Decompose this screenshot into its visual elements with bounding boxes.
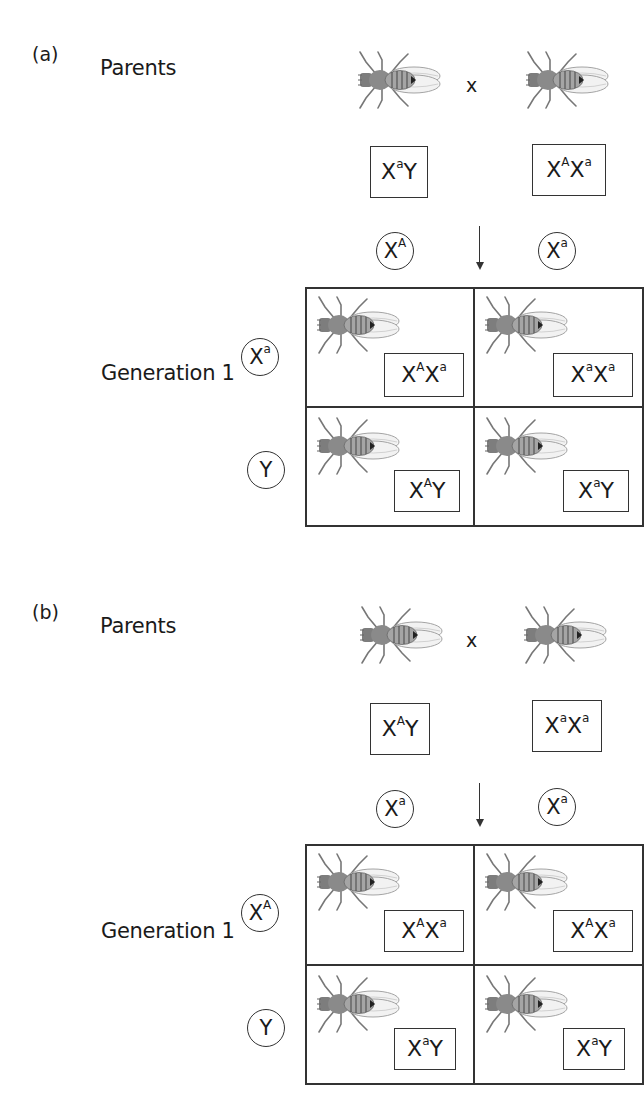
allele-superscript: a <box>396 158 403 170</box>
punnett-cell: XAXa <box>306 845 474 965</box>
punnett-cell: XAXa <box>306 288 474 407</box>
offspring-genotype-box: XAXa <box>384 910 464 952</box>
fruit-fly-icon <box>352 48 444 112</box>
parents-label: Parents <box>100 614 176 638</box>
fruit-fly-icon <box>479 850 571 914</box>
fruit-fly-icon <box>479 293 571 357</box>
offspring-genotype-box: XAXa <box>553 910 633 952</box>
panel-label: (b) <box>32 601 59 623</box>
fruit-fly-icon <box>520 48 612 112</box>
punnett-cell: XaY <box>474 965 643 1084</box>
allele-superscript: a <box>585 156 592 168</box>
fruit-fly-icon <box>479 414 571 478</box>
generation-label: Generation 1 <box>101 361 235 385</box>
punnett-cell: XaXa <box>474 288 643 407</box>
gamete-circle: Y <box>247 1009 285 1047</box>
punnett-square: XAXa XAXa XaY XaY <box>305 844 644 1085</box>
offspring-genotype-box: XAXa <box>384 353 464 397</box>
fruit-fly-icon <box>354 603 446 667</box>
punnett-cell: XAY <box>306 407 474 526</box>
fruit-fly-icon <box>311 850 403 914</box>
offspring-genotype-box: XaY <box>563 470 629 512</box>
gamete-circle: Xa <box>241 338 279 376</box>
fruit-fly-icon <box>518 603 610 667</box>
allele: X <box>546 159 561 181</box>
allele: X <box>569 159 584 181</box>
fruit-fly-icon <box>311 972 403 1036</box>
punnett-square: XAXa XaXa XAY XaY <box>305 287 644 527</box>
gamete-circle: Xa <box>538 788 576 826</box>
offspring-genotype-box: XaY <box>394 1028 456 1070</box>
down-arrow-icon <box>476 226 484 270</box>
allele-superscript: A <box>561 156 569 168</box>
punnett-cell: XAXa <box>474 845 643 965</box>
down-arrow-icon <box>476 783 484 827</box>
gamete-circle: XA <box>376 232 414 270</box>
parent-genotype-box: XAXa <box>532 144 606 196</box>
punnett-cell: XaY <box>474 407 643 526</box>
allele: X <box>381 161 396 183</box>
offspring-genotype-box: XaY <box>563 1028 625 1070</box>
punnett-cell: XaY <box>306 965 474 1084</box>
parent-genotype-box: XAY <box>370 703 430 755</box>
parent-genotype-box: XaXa <box>532 700 602 752</box>
cross-symbol: x <box>466 74 477 96</box>
cross-symbol: x <box>466 629 477 651</box>
offspring-genotype-box: XAY <box>394 470 460 512</box>
fruit-fly-icon <box>479 972 571 1036</box>
allele: Y <box>403 161 416 183</box>
parents-label: Parents <box>100 56 176 80</box>
generation-label: Generation 1 <box>101 919 235 943</box>
panel-label: (a) <box>32 43 58 65</box>
fruit-fly-icon <box>311 293 403 357</box>
gamete-circle: XA <box>241 894 279 932</box>
gamete-circle: Xa <box>538 232 576 270</box>
gamete-circle: Xa <box>376 790 414 828</box>
fruit-fly-icon <box>311 414 403 478</box>
parent-genotype-box: XaY <box>370 146 428 198</box>
gamete-circle: Y <box>247 451 285 489</box>
offspring-genotype-box: XaXa <box>553 353 633 397</box>
